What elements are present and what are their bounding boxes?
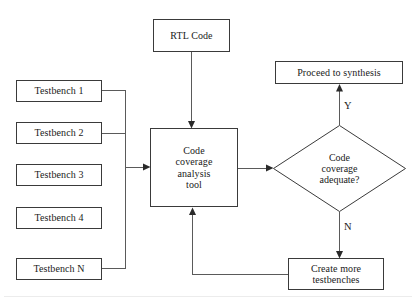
arrowhead-create-feedback [189, 208, 196, 216]
node-testbench-1-label: Testbench 1 [35, 85, 84, 96]
flowchart-canvas: RTL Code Testbench 1 Testbench 2 Testben… [0, 0, 416, 301]
node-decision[interactable]: Code coverage adequate? [273, 125, 406, 212]
node-testbench-2[interactable]: Testbench 2 [16, 122, 102, 144]
node-create-more-testbenches[interactable]: Create more testbenches [288, 258, 384, 290]
node-analysis-tool-line2: coverage [176, 156, 213, 167]
node-create-more-line2: testbenches [312, 274, 359, 285]
node-testbench-n[interactable]: Testbench N [16, 258, 102, 280]
node-testbench-2-label: Testbench 2 [35, 127, 84, 138]
node-analysis-tool-line3: analysis [177, 168, 210, 179]
node-rtl-code[interactable]: RTL Code [153, 19, 230, 52]
node-proceed-to-synthesis-label: Proceed to synthesis [297, 67, 381, 78]
node-testbench-4-label: Testbench 4 [35, 212, 84, 223]
arrowhead-decision-to-proceed [336, 84, 343, 92]
node-analysis-tool[interactable]: Code coverage analysis tool [150, 128, 238, 207]
node-analysis-tool-line1: Code [183, 145, 205, 156]
edge-label-yes: Y [344, 100, 352, 111]
node-testbench-n-label: Testbench N [33, 263, 84, 274]
node-testbench-1[interactable]: Testbench 1 [16, 80, 102, 102]
wire-create-feedback [193, 212, 289, 275]
node-create-more-line1: Create more [311, 263, 361, 274]
node-testbench-3[interactable]: Testbench 3 [16, 164, 102, 186]
node-testbench-3-label: Testbench 3 [35, 169, 84, 180]
edge-label-no: N [344, 221, 352, 232]
node-analysis-tool-line4: tool [186, 179, 202, 190]
decision-diamond-shape [273, 125, 406, 212]
node-rtl-code-label: RTL Code [170, 30, 212, 41]
node-proceed-to-synthesis[interactable]: Proceed to synthesis [275, 61, 403, 84]
node-testbench-4[interactable]: Testbench 4 [16, 207, 102, 229]
scan-artifact [4, 296, 412, 297]
